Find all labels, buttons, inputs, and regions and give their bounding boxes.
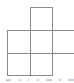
row-line-1	[7, 30, 74, 31]
bottom-label: abc	[6, 78, 11, 82]
column-line-2	[52, 7, 53, 76]
column-line-1	[30, 7, 31, 76]
row-line-2	[7, 53, 74, 54]
bottom-label: bbb	[46, 78, 52, 82]
bottom-label: lo	[36, 78, 39, 82]
bottom-labels: abc b c lo bbb b bbb	[6, 77, 74, 83]
top-box-top-edge	[30, 7, 53, 8]
bottom-label: c	[28, 78, 30, 82]
bottom-label: bbb	[68, 78, 74, 82]
bottom-label: b	[59, 78, 61, 82]
bottom-label: b	[19, 78, 21, 82]
bottom-edge	[7, 75, 53, 76]
side-mark: '	[2, 24, 3, 28]
